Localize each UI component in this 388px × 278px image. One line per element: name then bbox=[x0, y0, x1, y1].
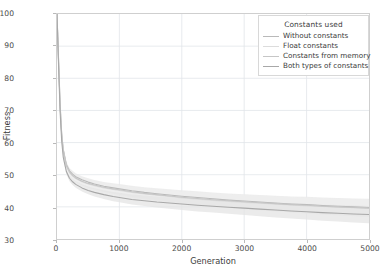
x-tick-mark bbox=[307, 240, 308, 243]
x-tick-mark bbox=[182, 240, 183, 243]
y-tick-label: 50 bbox=[4, 171, 14, 180]
x-axis-label: Generation bbox=[190, 256, 236, 266]
y-tick-label: 80 bbox=[4, 73, 14, 82]
y-tick-label: 100 bbox=[0, 9, 14, 18]
x-tick-mark bbox=[56, 240, 57, 243]
y-tick-mark bbox=[53, 240, 56, 241]
x-tick-mark bbox=[119, 240, 120, 243]
x-tick-label: 4000 bbox=[298, 244, 317, 253]
x-tick-label: 0 bbox=[54, 244, 59, 253]
x-tick-label: 1000 bbox=[109, 244, 128, 253]
legend-entries: Without constants Float constants Consta… bbox=[263, 31, 364, 71]
x-tick-label: 3000 bbox=[235, 244, 254, 253]
legend-entry: Constants from memory bbox=[263, 51, 364, 61]
legend: Constants used Without constants Float c… bbox=[258, 15, 369, 76]
y-axis-label: Fitness bbox=[2, 112, 12, 140]
legend-color-swatch bbox=[263, 46, 279, 47]
y-tick-label: 30 bbox=[4, 236, 14, 245]
y-tick-label: 90 bbox=[4, 41, 14, 50]
legend-entry-label: Without constants bbox=[283, 31, 348, 41]
chart-figure: 30405060708090100010002000300040005000 F… bbox=[0, 0, 388, 278]
legend-color-swatch bbox=[263, 66, 279, 67]
legend-entry: Float constants bbox=[263, 41, 364, 51]
legend-entry-label: Both types of constants bbox=[283, 61, 368, 71]
legend-color-swatch bbox=[263, 36, 279, 37]
legend-entry-label: Constants from memory bbox=[283, 51, 370, 61]
y-tick-label: 40 bbox=[4, 203, 14, 212]
legend-entry: Both types of constants bbox=[263, 61, 364, 71]
x-tick-mark bbox=[370, 240, 371, 243]
legend-title: Constants used bbox=[263, 20, 364, 29]
legend-entry: Without constants bbox=[263, 31, 364, 41]
x-tick-label: 5000 bbox=[360, 244, 379, 253]
legend-entry-label: Float constants bbox=[283, 41, 338, 51]
x-tick-label: 2000 bbox=[172, 244, 191, 253]
legend-color-swatch bbox=[263, 56, 279, 57]
x-tick-mark bbox=[244, 240, 245, 243]
